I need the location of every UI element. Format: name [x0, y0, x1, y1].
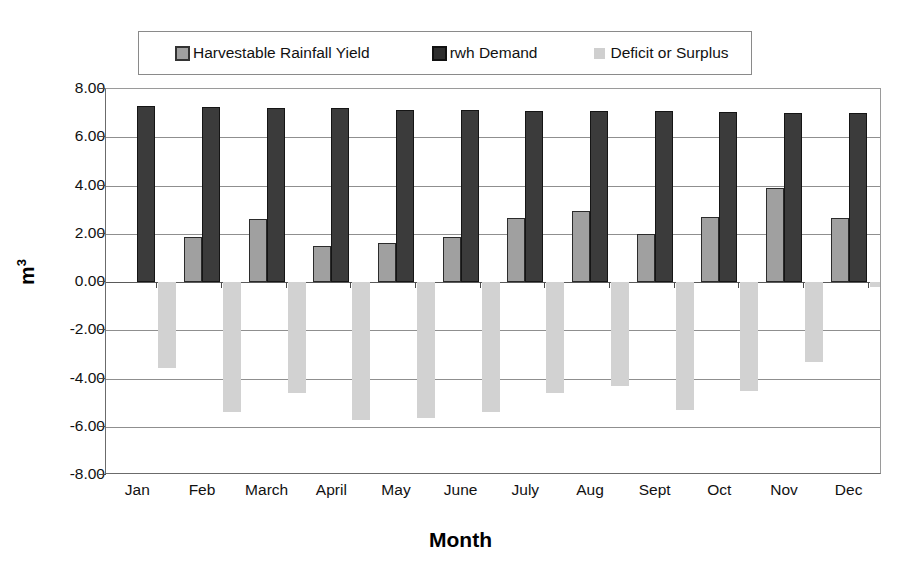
x-axis-tick-mark	[480, 282, 481, 288]
bar-deficit-or-surplus	[288, 282, 306, 393]
x-axis-tick-label: Nov	[770, 481, 798, 499]
plot-area	[105, 88, 881, 474]
bar-harvestable-rainfall-yield	[443, 237, 461, 282]
gridline	[106, 137, 880, 138]
bar-harvestable-rainfall-yield	[249, 219, 267, 282]
bar-rwh-demand	[137, 106, 155, 282]
legend-item-rwh-demand: rwh Demand	[432, 44, 538, 62]
bar-rwh-demand	[719, 112, 737, 282]
bar-deficit-or-surplus	[740, 282, 758, 391]
x-axis-tick-mark	[868, 282, 869, 288]
legend-swatch-icon-harvestable	[175, 46, 190, 61]
legend-swatch-icon-deficit	[594, 48, 605, 59]
x-axis-tick-mark	[609, 282, 610, 288]
x-axis-title: Month	[0, 528, 921, 552]
y-axis-title-text: m	[15, 266, 38, 285]
legend-label-harvestable: Harvestable Rainfall Yield	[193, 44, 370, 62]
gridline	[106, 427, 880, 428]
x-axis-tick-label: Aug	[576, 481, 604, 499]
x-axis-tick-label: May	[381, 481, 410, 499]
y-axis-tick-label: -6.00	[39, 417, 105, 435]
y-axis-tick-label: 0.00	[39, 272, 105, 290]
x-axis-tick-label: June	[444, 481, 478, 499]
y-axis-tick-label: -2.00	[39, 320, 105, 338]
bar-rwh-demand	[267, 108, 285, 282]
gridline	[106, 186, 880, 187]
bar-harvestable-rainfall-yield	[701, 217, 719, 282]
legend-label-deficit: Deficit or Surplus	[611, 44, 729, 62]
x-axis-tick-mark	[738, 282, 739, 288]
bar-rwh-demand	[655, 111, 673, 282]
bar-rwh-demand	[461, 110, 479, 282]
bar-rwh-demand	[849, 113, 867, 282]
bar-harvestable-rainfall-yield	[184, 237, 202, 282]
bar-deficit-or-surplus	[352, 282, 370, 420]
bar-rwh-demand	[590, 111, 608, 282]
x-axis-tick-label: Sept	[639, 481, 671, 499]
x-axis-tick-mark	[286, 282, 287, 288]
bar-deficit-or-surplus	[158, 282, 176, 368]
legend-label-demand: rwh Demand	[450, 44, 538, 62]
x-axis-tick-mark	[803, 282, 804, 288]
bar-harvestable-rainfall-yield	[637, 234, 655, 282]
y-axis-title: m3	[14, 259, 39, 285]
gridline	[106, 234, 880, 235]
legend-item-harvestable-rainfall-yield: Harvestable Rainfall Yield	[175, 44, 370, 62]
y-axis-tick-label: 2.00	[39, 224, 105, 242]
bar-deficit-or-surplus	[223, 282, 241, 412]
bar-harvestable-rainfall-yield	[766, 188, 784, 282]
chart-legend: Harvestable Rainfall Yield rwh Demand De…	[138, 31, 752, 75]
legend-swatch-icon-demand	[432, 46, 447, 61]
x-axis-tick-label: April	[316, 481, 347, 499]
y-axis-tick-label: -8.00	[39, 465, 105, 483]
x-axis-tick-label: March	[245, 481, 288, 499]
x-axis-tick-label: Feb	[189, 481, 216, 499]
bar-harvestable-rainfall-yield	[378, 243, 396, 282]
legend-item-deficit-or-surplus: Deficit or Surplus	[594, 44, 729, 62]
y-axis: m3 8.006.004.002.000.00-2.00-4.00-6.00-8…	[0, 0, 105, 581]
x-axis-tick-mark	[350, 282, 351, 288]
y-axis-tick-label: 4.00	[39, 176, 105, 194]
bar-rwh-demand	[331, 108, 349, 282]
bar-deficit-or-surplus	[676, 282, 694, 410]
x-axis-tick-labels: JanFebMarchAprilMayJuneJulyAugSeptOctNov…	[105, 481, 881, 509]
y-axis-tick-label: 8.00	[39, 79, 105, 97]
bar-rwh-demand	[525, 111, 543, 282]
x-axis-tick-mark	[221, 282, 222, 288]
bar-harvestable-rainfall-yield	[572, 211, 590, 282]
bar-deficit-or-surplus	[870, 282, 881, 287]
bar-harvestable-rainfall-yield	[507, 218, 525, 282]
x-axis-tick-label: Oct	[707, 481, 731, 499]
bar-rwh-demand	[396, 110, 414, 282]
x-axis-tick-label: Dec	[835, 481, 863, 499]
bar-deficit-or-surplus	[805, 282, 823, 362]
y-axis-tick-mark	[99, 474, 106, 475]
y-axis-title-exponent: 3	[14, 259, 29, 266]
bar-deficit-or-surplus	[482, 282, 500, 412]
y-axis-tick-label: -4.00	[39, 369, 105, 387]
bar-deficit-or-surplus	[546, 282, 564, 393]
bar-rwh-demand	[202, 107, 220, 282]
x-axis-tick-label: Jan	[125, 481, 150, 499]
bar-rwh-demand	[784, 113, 802, 282]
x-axis-tick-mark	[674, 282, 675, 288]
bar-deficit-or-surplus	[611, 282, 629, 386]
x-axis-tick-label: July	[512, 481, 540, 499]
x-axis-tick-mark	[544, 282, 545, 288]
bar-harvestable-rainfall-yield	[831, 218, 849, 282]
y-axis-tick-label: 6.00	[39, 127, 105, 145]
x-axis-tick-mark	[415, 282, 416, 288]
bar-harvestable-rainfall-yield	[313, 246, 331, 282]
bar-chart: Harvestable Rainfall Yield rwh Demand De…	[0, 0, 921, 581]
x-axis-tick-mark	[156, 282, 157, 288]
bar-deficit-or-surplus	[417, 282, 435, 418]
